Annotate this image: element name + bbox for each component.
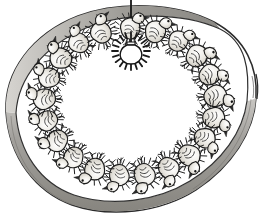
- chick-brooder-illustration: Chicks ringed under a hanging heat lamp …: [0, 0, 261, 223]
- lamp-bulb-glass: [120, 45, 142, 64]
- illustration-canvas: [0, 0, 261, 223]
